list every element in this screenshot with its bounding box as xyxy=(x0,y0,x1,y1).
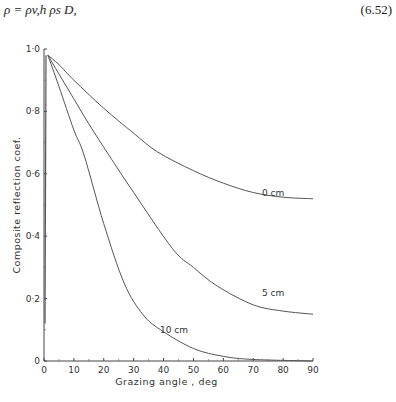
initial-rise-line xyxy=(45,55,46,323)
curve-label: 0 cm xyxy=(262,188,284,198)
y-tick-label: 0·4 xyxy=(26,231,41,241)
curve-label: 5 cm xyxy=(262,288,284,298)
y-tick-label: 1·0 xyxy=(26,44,41,54)
curve-0-cm xyxy=(48,55,313,199)
x-tick-label: 90 xyxy=(307,365,319,375)
x-tick-label: 70 xyxy=(247,365,259,375)
y-axis-title: Composite reflection coef. xyxy=(11,136,22,273)
y-tick-label: 0·2 xyxy=(26,294,40,304)
x-tick-label: 20 xyxy=(98,365,110,375)
y-tick-label: 0·6 xyxy=(26,169,41,179)
curve-10-cm xyxy=(48,55,313,361)
curve-label: 10 cm xyxy=(160,325,188,335)
y-tick-label: 0 xyxy=(34,356,40,366)
x-tick-label: 30 xyxy=(128,365,140,375)
reflection-chart: 010203040506070809000·20·40·60·81·0Grazi… xyxy=(0,0,396,402)
y-tick-label: 0·8 xyxy=(26,106,41,116)
x-tick-label: 50 xyxy=(188,365,200,375)
x-tick-label: 80 xyxy=(277,365,289,375)
x-axis-title: Grazing angle , deg xyxy=(115,376,218,387)
x-tick-label: 10 xyxy=(68,365,80,375)
x-tick-label: 60 xyxy=(218,365,230,375)
x-tick-label: 40 xyxy=(158,365,170,375)
x-tick-label: 0 xyxy=(41,365,47,375)
